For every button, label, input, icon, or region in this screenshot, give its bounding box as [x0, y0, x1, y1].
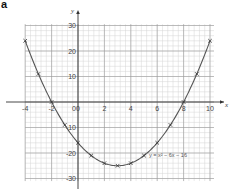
- svg-text:4: 4: [129, 105, 133, 112]
- y-axis-label: y: [70, 7, 75, 15]
- svg-text:-10: -10: [66, 124, 76, 131]
- svg-text:-20: -20: [66, 150, 76, 157]
- svg-text:10: 10: [68, 73, 76, 80]
- svg-text:-4: -4: [22, 105, 28, 112]
- svg-text:8: 8: [182, 105, 186, 112]
- svg-text:20: 20: [68, 48, 76, 55]
- x-axis-label: x: [224, 101, 229, 109]
- svg-text:6: 6: [155, 105, 159, 112]
- svg-text:0: 0: [76, 105, 80, 112]
- svg-text:0: 0: [72, 105, 76, 112]
- svg-text:10: 10: [206, 105, 214, 112]
- quadratic-chart: -4-202468103020100-10-20-30 y = x² − 6x …: [0, 0, 229, 191]
- svg-text:2: 2: [102, 105, 106, 112]
- equation-label: y = x² − 6x − 16: [149, 152, 187, 158]
- svg-text:-30: -30: [66, 175, 76, 182]
- svg-text:30: 30: [68, 22, 76, 29]
